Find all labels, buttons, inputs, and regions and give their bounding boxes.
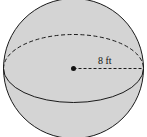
center-point — [71, 66, 76, 71]
sphere-diagram: 8 ft — [0, 0, 147, 137]
radius-label: 8 ft — [98, 55, 112, 66]
